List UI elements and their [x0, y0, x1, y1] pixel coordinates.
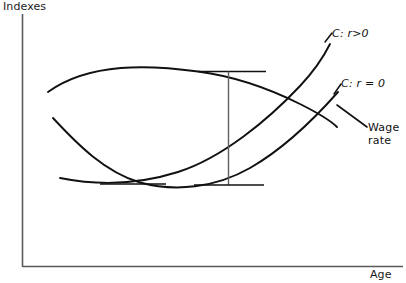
curve-label-c-zero-rate: C: r = 0	[341, 77, 385, 90]
x-axis-label: Age	[370, 268, 392, 281]
c-positive-rate-leader-line	[325, 33, 332, 42]
curve-wage-rate	[48, 67, 337, 127]
wage-rate-label-line1: Wage	[368, 121, 399, 134]
chart-canvas	[0, 0, 406, 283]
y-axis-label: Indexes	[3, 0, 46, 13]
curve-c-zero-rate	[53, 92, 338, 187]
curve-label-wage-rate: Wagerate	[368, 121, 399, 147]
figure-container: Indexes Age C: r>0 C: r = 0 Wagerate	[0, 0, 406, 283]
wage-rate-label-line2: rate	[368, 134, 391, 147]
wage-rate-leader-line	[337, 105, 367, 127]
curve-label-c-positive-rate: C: r>0	[332, 27, 369, 40]
